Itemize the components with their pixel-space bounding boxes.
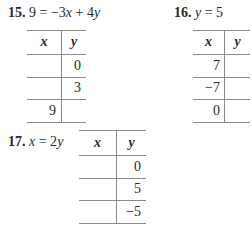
cell-y: −5	[117, 201, 141, 223]
problem-17-heading: 17. x = 2y	[8, 134, 63, 150]
cell-x: 7	[193, 55, 220, 77]
header-y: y	[117, 132, 146, 154]
problem-15-heading: 15. 9 = −3x + 4y	[8, 5, 100, 21]
problem-equation: x = 2y	[29, 134, 63, 149]
problem-17-table: x y 0 5 −5	[79, 130, 146, 224]
cell-y: 0	[117, 156, 141, 178]
cell-y: 5	[117, 178, 141, 200]
problem-equation: y = 5	[195, 5, 223, 20]
cell-x: 0	[193, 100, 220, 122]
problem-number: 16.	[174, 5, 192, 20]
header-y: y	[62, 31, 86, 53]
problem-16-table: x y 7 −7 0	[193, 30, 250, 123]
problem-number: 15.	[8, 5, 26, 20]
cell-y: 3	[62, 77, 81, 99]
table-rule	[193, 122, 250, 123]
table-rule	[79, 223, 146, 224]
problem-15-table: x y 0 3 9	[27, 30, 86, 123]
cell-x: 9	[27, 100, 56, 122]
table-rule	[79, 130, 146, 131]
header-y: y	[225, 31, 250, 53]
cell-y: 0	[62, 55, 81, 77]
header-x: x	[193, 31, 224, 53]
problem-equation: 9 = −3x + 4y	[29, 5, 100, 20]
cell-x: −7	[193, 77, 220, 99]
header-x: x	[27, 31, 61, 53]
header-x: x	[79, 132, 116, 154]
table-rule	[27, 122, 86, 123]
problem-number: 17.	[8, 134, 26, 149]
problem-16-heading: 16. y = 5	[174, 5, 223, 21]
